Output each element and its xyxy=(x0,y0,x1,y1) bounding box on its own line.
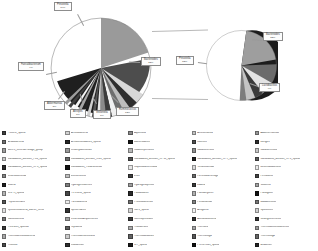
legend-item[interactable]: Cobria xyxy=(2,181,64,190)
legend-item-label: Actinobacteria xyxy=(71,132,88,135)
legend-item[interactable]: PCOE-LdK_sponb xyxy=(192,241,254,250)
legend-item[interactable]: Deuthidodoviloss xyxy=(255,163,317,172)
legend-swatch-icon xyxy=(192,243,196,247)
legend-item[interactable]: Caldiserpentosis xyxy=(128,146,190,155)
legend-item[interactable]: Bacteroidetes xyxy=(128,138,190,147)
legend-swatch-icon xyxy=(192,191,196,195)
legend-item[interactable]: Candidatus_division_OD1_sponb xyxy=(65,155,127,164)
legend-item[interactable]: Caporobactericaula xyxy=(128,163,190,172)
legend-item[interactable]: Candidatus_division_OP8_sponb xyxy=(2,163,64,172)
legend-swatch-icon xyxy=(192,217,196,221)
legend-swatch-icon xyxy=(128,157,132,161)
legend-item[interactable]: Nafilostomina xyxy=(2,215,64,224)
legend-item[interactable]: Adalfhermomas xyxy=(255,129,317,138)
legend-swatch-icon xyxy=(128,165,132,169)
legend-item[interactable]: Paludibacter xyxy=(128,189,190,198)
legend-item[interactable]: GRPR_sponb xyxy=(2,189,64,198)
legend-swatch-icon xyxy=(128,140,132,144)
callout-prevotella-sub: Prevotella 52% xyxy=(176,56,194,65)
legend-item-label: Sporoleent xyxy=(260,209,273,212)
legend-item[interactable]: ITLx-B15_sponub xyxy=(2,224,64,233)
legend-swatch-icon xyxy=(2,191,6,195)
legend-item[interactable]: Candidatus_division_OP9_sponb xyxy=(192,155,254,164)
legend-item[interactable]: Peridinamae xyxy=(192,198,254,207)
legend-item[interactable]: Paeudiflyorier xyxy=(192,189,254,198)
legend-item-label: Cobria xyxy=(8,184,16,187)
legend-item[interactable]: Hydrogenedentes xyxy=(65,181,127,190)
legend-item[interactable]: Acidobacteria xyxy=(2,138,64,147)
legend-item[interactable]: Cubiantifori xyxy=(65,241,127,250)
legend-item[interactable]: Ferretobacteriage xyxy=(192,172,254,181)
legend-item-label: Epsilonrotacteria_bacter_ferito xyxy=(8,209,44,212)
legend-item[interactable]: Actinobacteria xyxy=(65,129,127,138)
legend-item[interactable]: BD1-5_incertae-sedge_group xyxy=(2,146,64,155)
legend-item-label: Paludibacter xyxy=(134,192,149,195)
legend-item[interactable]: Thermodesulfovibrio xyxy=(65,232,127,241)
legend-item-label: Caldiserpentosis xyxy=(134,149,154,152)
legend-item[interactable]: Candidatus_division_FCx_sponb xyxy=(2,155,64,164)
legend-item[interactable]: PL-1-B11_sponb xyxy=(65,189,127,198)
legend-item[interactable]: Candidatus_division_OP8_sponb xyxy=(255,155,317,164)
legend-item[interactable]: Vokomib xyxy=(255,181,317,190)
legend-item[interactable]: Tepidiella xyxy=(65,224,127,233)
legend-item[interactable]: Caldisericifoto xyxy=(255,146,317,155)
legend-item[interactable]: Caldiserericos xyxy=(192,146,254,155)
legend-item[interactable]: Hydrogenophilus xyxy=(128,181,190,190)
legend-item[interactable]: Deinococcus xyxy=(65,172,127,181)
legend-item[interactable]: Spirochaetes xyxy=(65,206,127,215)
legend-item[interactable]: Thermodikiduses xyxy=(128,232,190,241)
legend-item[interactable]: Patuligoter xyxy=(255,189,317,198)
legend-item[interactable]: Bawdosnosis xyxy=(255,198,317,207)
legend-item[interactable]: Thutisile xyxy=(2,241,64,250)
legend-item[interactable]: Thermodesulfobacteria xyxy=(2,232,64,241)
legend-item[interactable]: Loviges xyxy=(255,138,317,147)
legend-item[interactable]: Aminomanila xyxy=(192,129,254,138)
legend-item[interactable]: Chlorobiomeida xyxy=(2,172,64,181)
legend-item[interactable]: Antigomo xyxy=(192,206,254,215)
callout-bacteroides-main: Bacteroides 22% xyxy=(141,57,161,66)
legend-item-label: Koenimi xyxy=(197,141,207,144)
legend-item[interactable]: Thermotoga xyxy=(192,232,254,241)
legend-item[interactable]: Thercara xyxy=(192,224,254,233)
legend-item[interactable]: Sciangiofteriteros xyxy=(255,215,317,224)
legend-item[interactable]: SB-1_sponb xyxy=(128,206,190,215)
legend-item[interactable]: Candidatus_division_OP11_sponb xyxy=(128,155,190,164)
legend-item-label: BD1-5_incertae-sedge_group xyxy=(8,149,43,152)
legend-item[interactable]: Aquificota xyxy=(128,129,190,138)
legend-item[interactable]: Parcubacteria xyxy=(65,198,127,207)
legend-item[interactable]: acadimori xyxy=(255,241,317,250)
legend-swatch-icon xyxy=(255,140,259,144)
legend-item[interactable]: Peptococcales xyxy=(2,198,64,207)
legend-item-label: Tenibiosomiae xyxy=(197,166,214,169)
legend-item[interactable]: Verbrulia-Acquemicros xyxy=(65,215,127,224)
legend-swatch-icon xyxy=(128,200,132,204)
legend-item[interactable]: Thermotoga xyxy=(255,232,317,241)
legend-item[interactable]: Proteobacterias xyxy=(128,198,190,207)
legend-item[interactable]: Firmibanto xyxy=(255,172,317,181)
legend-item[interactable]: Epsilonrotacteria_bacter_ferito xyxy=(2,206,64,215)
legend-item[interactable]: WT_sponb xyxy=(128,241,190,250)
legend-item[interactable]: Thermodesuftlibacterios xyxy=(255,224,317,233)
legend-swatch-icon xyxy=(255,191,259,195)
legend-item-label: Candidatus_division_OP8_sponb xyxy=(260,158,300,161)
legend-item[interactable]: ENS xyxy=(128,172,190,181)
legend-item[interactable]: Thaliderans xyxy=(128,224,190,233)
legend-item-label: Candidatus_Tusaromonas xyxy=(71,166,102,169)
legend-item[interactable]: Tenibiosomiae xyxy=(192,163,254,172)
legend-column-5: AdalfhermomasLovigesCaldisericifotoCandi… xyxy=(255,129,317,251)
legend-item[interactable]: Sporoleent xyxy=(255,206,317,215)
legend-item-label: Hydrogenophilus xyxy=(134,184,154,187)
legend-swatch-icon xyxy=(2,174,6,178)
legend-item-label: Patuligoter xyxy=(260,192,273,195)
legend-item-label: Thermodesulfovibrio xyxy=(71,235,95,238)
legend-item-label: Candidatus_division_OP9_sponb xyxy=(197,158,237,161)
legend-item[interactable]: Koenimi xyxy=(192,138,254,147)
legend-item-label: Loviges xyxy=(260,141,269,144)
legend-item[interactable]: Somnophilusom xyxy=(128,215,190,224)
legend-item[interactable]: Acetatubuckena xyxy=(192,215,254,224)
legend-item[interactable]: Candidatus_Tusaromonas xyxy=(65,163,127,172)
legend-item[interactable]: Armatimonadetes_sponb xyxy=(65,138,127,147)
legend-item[interactable]: Chlamydiomonas xyxy=(65,146,127,155)
legend-item[interactable]: PC03-2_sponb xyxy=(2,129,64,138)
legend-item[interactable]: Lidaria xyxy=(192,181,254,190)
